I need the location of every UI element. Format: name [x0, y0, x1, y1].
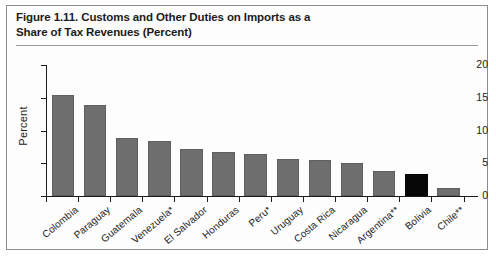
bar-nicaragua — [341, 163, 363, 196]
x-tick-mark — [46, 197, 47, 202]
x-tick-mark — [431, 197, 432, 202]
bar-argentina — [373, 171, 395, 196]
x-tick-mark — [367, 197, 368, 202]
x-tick-mark — [207, 197, 208, 202]
x-tick-mark — [142, 197, 143, 202]
bar-peru — [244, 154, 266, 196]
bar-venezuela — [148, 141, 170, 196]
figure-container: Figure 1.11. Customs and Other Duties on… — [0, 0, 496, 266]
x-tick-mark — [174, 197, 175, 202]
x-tick-mark — [399, 197, 400, 202]
bar-elsalvador — [180, 149, 202, 196]
bar-bolivia — [405, 174, 427, 196]
x-tick-mark — [464, 197, 465, 202]
x-tick-mark — [303, 197, 304, 202]
figure-title-line-2: Share of Tax Revenues (Percent) — [16, 25, 436, 40]
x-tick-mark — [239, 197, 240, 202]
x-tick-mark — [110, 197, 111, 202]
bar-uruguay — [277, 159, 299, 196]
x-tick-mark — [271, 197, 272, 202]
figure-title-line-1: Figure 1.11. Customs and Other Duties on… — [16, 10, 436, 25]
bar-honduras — [212, 152, 234, 196]
y-axis-label: Percent — [17, 71, 29, 181]
x-tick-label: Bolivia — [403, 204, 433, 232]
x-tick-label: Chile** — [435, 204, 466, 233]
x-tick-label: Peru* — [246, 204, 273, 229]
plot-area: Percent 05101520 ColombiaParaguayGuatema… — [6, 48, 488, 250]
bar-paraguay — [84, 105, 106, 196]
x-tick-mark — [335, 197, 336, 202]
bar-chile — [437, 188, 459, 197]
bar-colombia — [52, 95, 74, 196]
bar-series — [46, 65, 478, 196]
title-divider — [16, 45, 478, 46]
bar-guatemala — [116, 138, 138, 196]
bar-costarica — [309, 160, 331, 196]
figure-title: Figure 1.11. Customs and Other Duties on… — [16, 10, 436, 40]
x-tick-mark — [78, 197, 79, 202]
